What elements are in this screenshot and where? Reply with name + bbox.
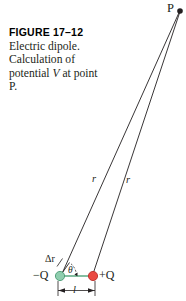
figure-caption-text: Electric dipole. Calculation of potentia…: [9, 40, 101, 94]
r-line-from-positive-charge: [93, 12, 180, 275]
positive-charge-label: +Q: [99, 269, 114, 281]
delta-r-tick: [57, 259, 63, 267]
negative-charge-label: −Q: [33, 269, 48, 281]
figure-caption-block: FIGURE 17–12 Electric dipole. Calculatio…: [9, 26, 101, 94]
caption-italic-V: V: [52, 67, 59, 80]
point-p-label: P: [167, 2, 174, 15]
separation-arrowhead-left: [59, 288, 66, 292]
figure-root: FIGURE 17–12 Electric dipole. Calculatio…: [0, 0, 186, 301]
delta-r-label: Δr: [45, 254, 55, 264]
separation-length-label: l: [73, 285, 76, 296]
negative-charge-dot: [55, 271, 64, 280]
theta-angle-label: θ: [68, 266, 73, 276]
positive-charge-dot: [88, 271, 97, 280]
r-label-left: r: [92, 174, 96, 185]
figure-number-label: FIGURE 17–12: [9, 26, 101, 39]
separation-arrowhead-right: [88, 288, 95, 292]
r-label-right: r: [126, 175, 130, 186]
point-p-dot: [177, 8, 183, 14]
